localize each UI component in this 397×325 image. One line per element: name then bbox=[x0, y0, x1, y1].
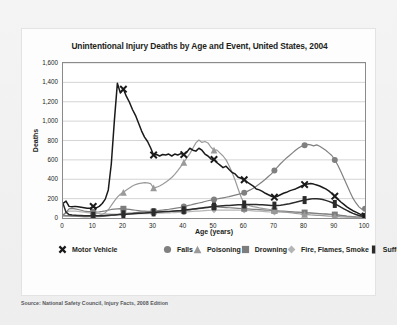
data-point-marker bbox=[271, 168, 277, 174]
y-tick-label: 1,000 bbox=[42, 117, 58, 124]
data-point-marker bbox=[120, 86, 126, 92]
data-point-marker bbox=[242, 200, 246, 208]
y-tick-label: 1,400 bbox=[42, 78, 58, 85]
x-axis-title: Age (years) bbox=[62, 228, 366, 235]
data-point-marker bbox=[90, 203, 96, 209]
data-point-marker bbox=[91, 212, 95, 218]
data-point-marker bbox=[303, 196, 307, 204]
data-point-marker bbox=[302, 142, 308, 148]
legend-label: Motor Vehicle bbox=[72, 246, 118, 253]
legend-item-suffocation-by-ingestion-inhalation[interactable]: Suffocation by Ingestion, Inhalation bbox=[369, 245, 397, 254]
legend-item-motor-vehicle[interactable]: Motor Vehicle bbox=[58, 245, 163, 254]
screenshot-root: Unintentional Injury Deaths by Age and E… bbox=[0, 0, 397, 325]
y-axis-title: Deaths bbox=[32, 62, 44, 219]
legend-item-poisoning[interactable]: Poisoning bbox=[193, 245, 241, 254]
data-point-marker bbox=[333, 200, 337, 208]
y-tick-label: 800 bbox=[47, 136, 58, 143]
y-tick-label: 0 bbox=[54, 214, 58, 221]
y-tick-label: 600 bbox=[47, 155, 58, 162]
chart-card: Unintentional Injury Deaths by Age and E… bbox=[21, 28, 376, 296]
plot-area-wrapper: 02004006008001,0001,2001,4001,600 010203… bbox=[62, 62, 366, 219]
circle-marker-icon bbox=[163, 245, 172, 254]
chart-legend: Motor VehicleFallsPoisoningDrowningFire,… bbox=[58, 243, 370, 256]
y-tick-label: 1,200 bbox=[42, 97, 58, 104]
legend-label: Falls bbox=[177, 246, 193, 253]
data-point-marker bbox=[152, 208, 156, 216]
y-tick-label: 200 bbox=[47, 194, 58, 201]
bar-marker-icon bbox=[369, 245, 378, 254]
x-marker-icon bbox=[58, 245, 67, 254]
legend-label: Poisoning bbox=[207, 246, 241, 253]
data-point-marker bbox=[241, 190, 247, 196]
data-point-marker bbox=[332, 157, 338, 163]
data-point-marker bbox=[241, 177, 247, 183]
chart-canvas bbox=[63, 63, 365, 218]
chart-title: Unintentional Injury Deaths by Age and E… bbox=[22, 41, 377, 51]
data-point-marker bbox=[272, 202, 276, 210]
legend-label: Drowning bbox=[255, 246, 287, 253]
legend-item-falls[interactable]: Falls bbox=[163, 245, 193, 254]
square-marker-icon bbox=[241, 245, 250, 254]
data-point-marker bbox=[211, 197, 217, 203]
diamond-marker-icon bbox=[287, 245, 296, 254]
y-tick-label: 1,600 bbox=[42, 59, 58, 66]
data-point-marker bbox=[362, 206, 365, 212]
legend-item-fire-flames-smoke[interactable]: Fire, Flames, Smoke bbox=[287, 245, 369, 254]
legend-label: Suffocation by Ingestion, Inhalation bbox=[383, 246, 397, 253]
data-point-marker bbox=[121, 210, 125, 218]
legend-item-drowning[interactable]: Drowning bbox=[241, 245, 287, 254]
y-tick-label: 400 bbox=[47, 175, 58, 182]
data-point-marker bbox=[182, 206, 186, 214]
source-note: Source: National Safety Council, Injury … bbox=[21, 300, 168, 306]
plot-area bbox=[62, 62, 366, 219]
triangle-marker-icon bbox=[193, 245, 202, 254]
legend-label: Fire, Flames, Smoke bbox=[301, 246, 369, 253]
data-point-marker bbox=[212, 202, 216, 210]
